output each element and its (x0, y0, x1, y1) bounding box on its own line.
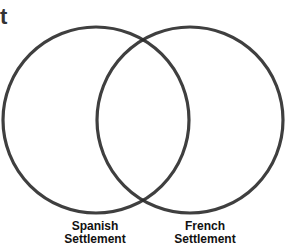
label-line-2: Settlement (40, 233, 150, 245)
spanish-settlement-label: Spanish Settlement (40, 220, 150, 245)
french-settlement-label: French Settlement (150, 220, 260, 245)
label-line-2: Settlement (150, 233, 260, 245)
venn-diagram (0, 0, 290, 245)
